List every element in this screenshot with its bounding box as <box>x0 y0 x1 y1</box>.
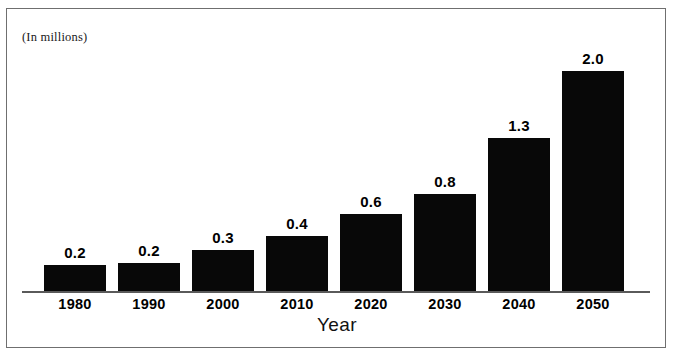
plot-area: 0.21980 0.21990 0.32000 0.42010 0.62020 … <box>0 0 674 362</box>
bar-value-label: 0.8 <box>404 173 486 190</box>
bar-group: 0.62020 <box>340 0 402 362</box>
bar-2050[interactable] <box>562 71 624 291</box>
bar-1990[interactable] <box>118 263 180 291</box>
bar-2010[interactable] <box>266 236 328 291</box>
bar-group: 0.21990 <box>118 0 180 362</box>
bar-1980[interactable] <box>44 265 106 291</box>
bar-2030[interactable] <box>414 194 476 291</box>
bar-group: 0.32000 <box>192 0 254 362</box>
bar-group: 0.82030 <box>414 0 476 362</box>
bar-value-label: 0.3 <box>182 229 264 246</box>
bar-group: 0.21980 <box>44 0 106 362</box>
bar-2000[interactable] <box>192 250 254 291</box>
bar-value-label: 0.2 <box>34 244 116 261</box>
bar-group: 0.42010 <box>266 0 328 362</box>
bar-group: 1.32040 <box>488 0 550 362</box>
chart-screenshot: (In millions) 0.21980 0.21990 0.32000 0.… <box>0 0 674 362</box>
bar-value-label: 0.2 <box>108 242 190 259</box>
bar-value-label: 1.3 <box>478 117 560 134</box>
bar-2020[interactable] <box>340 214 402 291</box>
bar-value-label: 0.6 <box>330 193 412 210</box>
bar-value-label: 0.4 <box>256 215 338 232</box>
x-tick-label-2050: 2050 <box>550 296 636 312</box>
bar-value-label: 2.0 <box>552 50 634 67</box>
x-axis-line <box>22 291 650 293</box>
bar-2040[interactable] <box>488 138 550 291</box>
bar-group: 2.02050 <box>562 0 624 362</box>
x-axis-title: Year <box>0 314 674 336</box>
